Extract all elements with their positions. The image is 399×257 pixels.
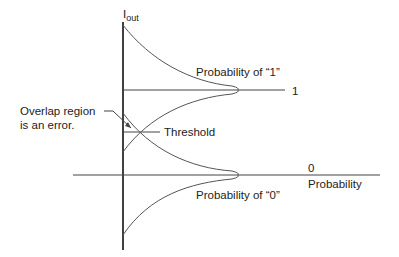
prob-zero-upper-curve xyxy=(123,113,238,175)
curve-one-label: Probability of “1” xyxy=(196,66,280,78)
threshold-label: Threshold xyxy=(164,126,215,138)
overlap-label-line1: Overlap region xyxy=(20,105,95,117)
overlap-label-line2: is an error. xyxy=(20,119,74,131)
curve-zero-label: Probability of “0” xyxy=(196,189,280,201)
x-axis-label: Probability xyxy=(308,178,362,190)
axis-label-iout: Iout xyxy=(123,8,139,23)
prob-zero-lower-curve xyxy=(123,175,238,235)
prob-one-upper-curve xyxy=(123,25,238,90)
level-zero-label: 0 xyxy=(308,162,314,174)
eye-diagram: Iout Probability of “1” 1 Threshold Over… xyxy=(0,0,399,257)
level-one-label: 1 xyxy=(292,85,298,97)
prob-one-lower-curve xyxy=(123,90,238,152)
